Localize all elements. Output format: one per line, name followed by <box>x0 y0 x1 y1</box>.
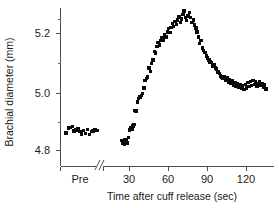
chart-canvas: Brachial diameter (mm) 5.2 5.0 4.8 Pre 3… <box>0 0 279 208</box>
y-tick-label-5-2: 5.2 <box>35 27 50 39</box>
data-point <box>141 92 144 95</box>
data-point <box>158 43 161 46</box>
data-point <box>149 70 152 73</box>
data-point <box>180 17 183 20</box>
scatter-series-pre <box>64 125 98 136</box>
data-point <box>82 129 85 132</box>
data-point <box>192 18 195 21</box>
data-point <box>168 31 171 34</box>
scatter-series-post <box>120 9 268 146</box>
x-tick-label-120: 120 <box>237 173 255 185</box>
data-point <box>164 35 167 38</box>
data-point <box>264 87 267 90</box>
data-point <box>95 129 98 132</box>
data-point <box>175 23 178 26</box>
data-point <box>199 39 202 42</box>
data-point <box>185 19 188 22</box>
data-point <box>263 83 266 86</box>
data-point <box>194 26 197 29</box>
data-point <box>181 13 184 16</box>
data-point <box>179 21 182 24</box>
x-tick-label-90: 90 <box>201 173 213 185</box>
y-tick-label-4-8: 4.8 <box>35 144 50 156</box>
data-point <box>195 30 198 33</box>
data-point <box>136 100 139 103</box>
data-point <box>71 125 74 128</box>
data-point <box>150 62 153 65</box>
data-point <box>154 51 157 54</box>
data-point <box>197 35 200 38</box>
data-point <box>151 58 154 61</box>
data-point <box>147 66 150 69</box>
data-point <box>188 11 191 14</box>
data-point <box>84 132 87 135</box>
x-tick-label-pre: Pre <box>71 173 88 185</box>
x-tick-label-60: 60 <box>162 173 174 185</box>
data-point <box>132 123 135 126</box>
data-point <box>134 109 137 112</box>
brachial-diameter-scatter-figure: Brachial diameter (mm) 5.2 5.0 4.8 Pre 3… <box>0 0 279 208</box>
data-point <box>126 141 129 144</box>
data-point <box>127 136 130 139</box>
data-point <box>86 128 89 131</box>
data-point <box>146 75 149 78</box>
data-point <box>203 51 206 54</box>
data-point <box>182 9 185 12</box>
data-point <box>80 132 83 135</box>
data-point <box>64 131 67 134</box>
x-tick-label-30: 30 <box>123 173 135 185</box>
x-axis-label: Time after cuff release (sec) <box>107 190 237 202</box>
y-tick-label-5-0: 5.0 <box>35 87 50 99</box>
data-point <box>162 39 165 42</box>
y-axis-label: Brachial diameter (mm) <box>3 37 15 146</box>
data-point <box>142 86 145 89</box>
